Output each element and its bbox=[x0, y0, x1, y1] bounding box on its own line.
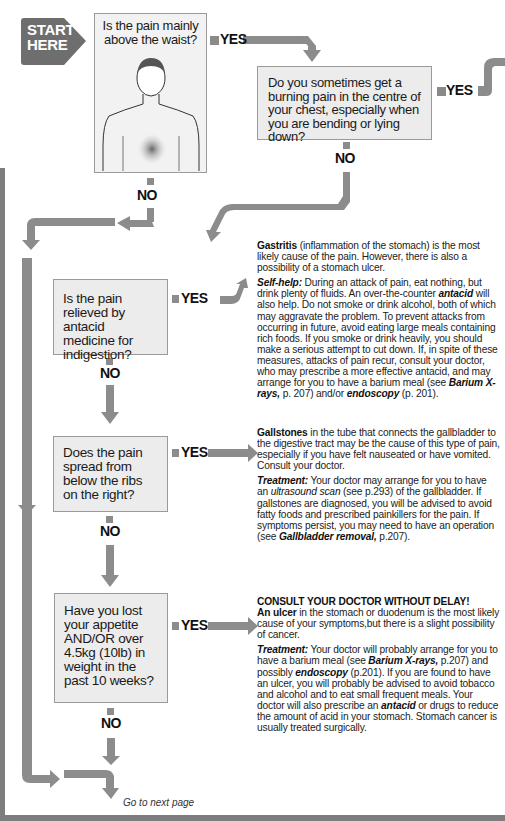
answer-gastritis: Gastritis (inflammation of the stomach) … bbox=[257, 240, 500, 403]
question-box-burning-chest: Do you sometimes get a burning pain in t… bbox=[257, 66, 432, 140]
question-box-pain-above-waist: Is the pain mainly above the waist? bbox=[94, 13, 207, 173]
question-text: Is the pain relieved by antacid medicine… bbox=[63, 291, 133, 362]
q4-yes-label: YES bbox=[181, 444, 208, 460]
arrow-q2-yes bbox=[478, 58, 505, 96]
question-box-appetite-weight-loss: Have you lost your appetite AND/OR over … bbox=[54, 593, 168, 703]
q1-no-label: NO bbox=[137, 187, 157, 203]
question-text: Do you sometimes get a burning pain in t… bbox=[268, 75, 420, 144]
urgent-warning: CONSULT YOUR DOCTOR WITHOUT DELAY! bbox=[257, 596, 469, 607]
q4-no-label: NO bbox=[100, 523, 120, 539]
question-text: Does the pain spread from below the ribs… bbox=[63, 445, 142, 502]
q3-yes-label: YES bbox=[181, 290, 208, 306]
arrow-left-column-merge bbox=[22, 770, 60, 788]
start-here-label: STARTHERE bbox=[27, 22, 74, 52]
question-box-antacid-relief: Is the pain relieved by antacid medicine… bbox=[53, 279, 168, 355]
yes-marker bbox=[437, 87, 446, 96]
go-to-next-page-link[interactable]: Go to next page bbox=[123, 797, 194, 808]
arrow-q5-yes bbox=[208, 617, 258, 635]
arrow-q3-no bbox=[101, 385, 119, 424]
q1-yes-label: YES bbox=[220, 31, 247, 47]
q3-no-label: NO bbox=[100, 365, 120, 381]
arrow-q4-yes bbox=[208, 444, 258, 462]
q2-yes-label: YES bbox=[446, 82, 473, 98]
answer-ulcer: CONSULT YOUR DOCTOR WITHOUT DELAY! An ul… bbox=[257, 596, 502, 737]
answer-gallstones: Gallstones in the tube that connects the… bbox=[257, 427, 500, 546]
arrow-q3-yes bbox=[220, 278, 248, 304]
question-box-pain-below-ribs: Does the pain spread from below the ribs… bbox=[53, 436, 168, 512]
arrow-to-left-column bbox=[22, 218, 115, 250]
question-text: Have you lost your appetite AND/OR over … bbox=[64, 603, 154, 688]
arrow-q4-no bbox=[101, 545, 119, 587]
arrow-q2-no bbox=[206, 196, 350, 242]
arrow-q1-yes bbox=[243, 36, 308, 44]
arrow-to-next-page bbox=[64, 770, 119, 799]
torso-illustration-icon bbox=[95, 46, 206, 171]
arrow-q5-no bbox=[102, 738, 120, 765]
q5-yes-label: YES bbox=[181, 617, 208, 633]
q2-no-label: NO bbox=[335, 150, 355, 166]
yes-marker bbox=[210, 36, 219, 45]
q5-no-label: NO bbox=[101, 715, 121, 731]
question-text: Is the pain mainly above the waist? bbox=[95, 14, 206, 46]
